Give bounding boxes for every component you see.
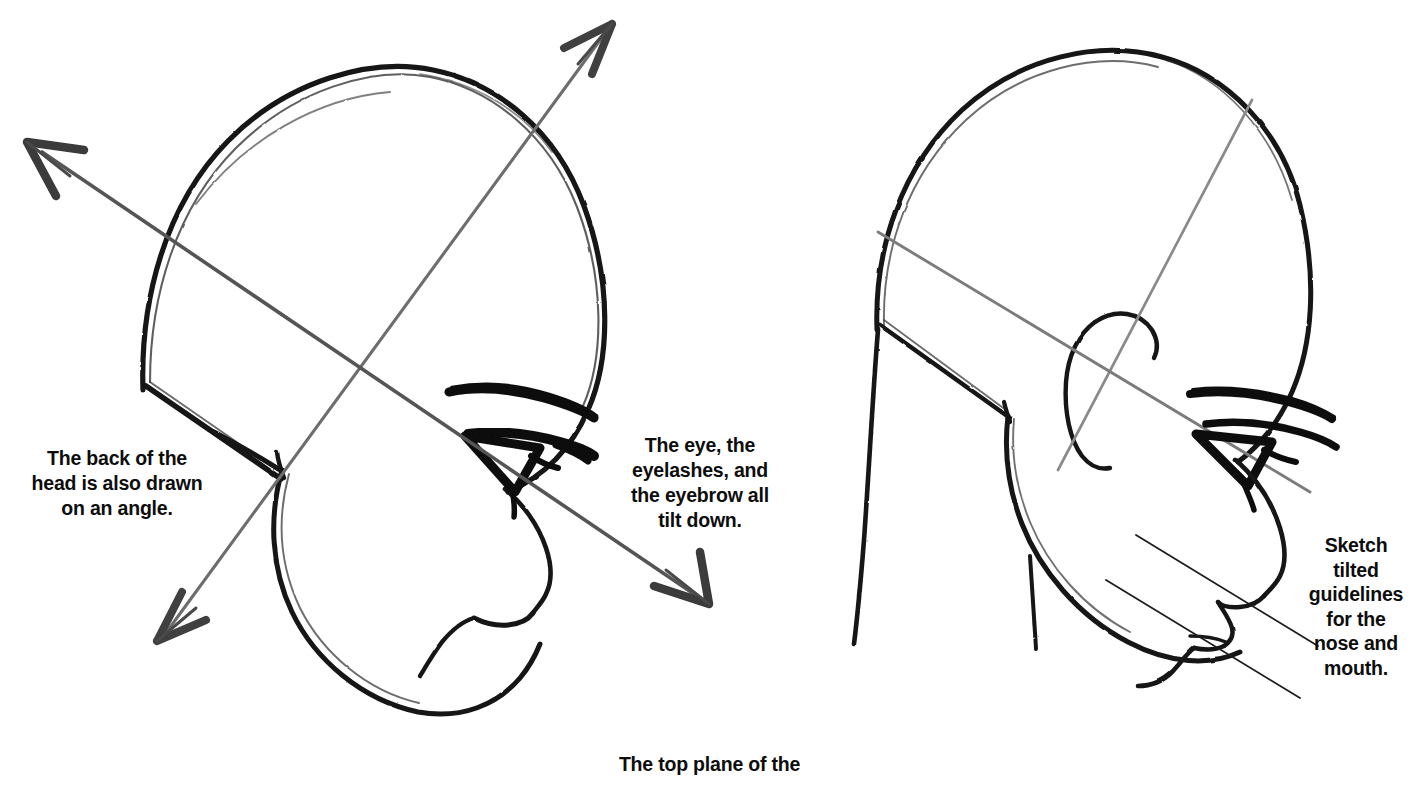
caption-sketch-guidelines: Sketch tilted guidelines for the nose an… (1300, 533, 1412, 680)
caption-top-plane: The top plane of the (541, 752, 878, 777)
tutorial-page: The back of the head is also drawn on an… (0, 0, 1418, 787)
illustration-canvas (0, 0, 1418, 787)
caption-eye-tilt: The eye, the eyelashes, and the eyebrow … (610, 433, 790, 533)
caption-back-of-head: The back of the head is also drawn on an… (8, 446, 226, 521)
